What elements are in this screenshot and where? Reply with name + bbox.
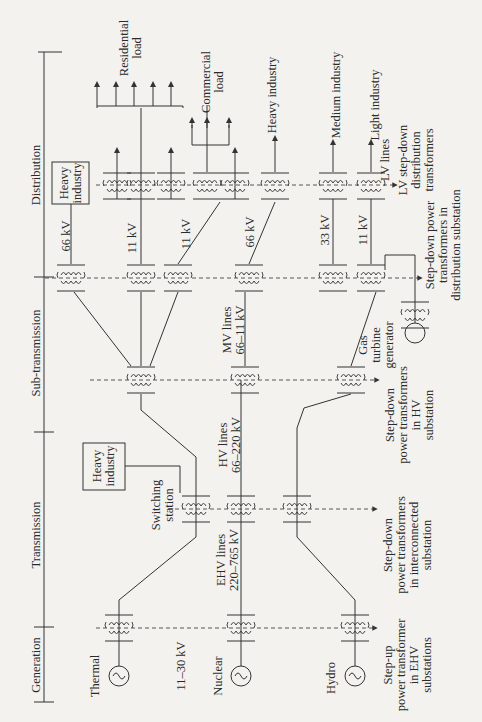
step-up-note-4: substations <box>420 637 434 693</box>
step-up-note-2: power transformer <box>394 618 408 712</box>
hv-line-right <box>297 408 304 481</box>
hv-label-2: 66–220 kV <box>229 417 243 473</box>
lv-dist-note-3: transformers <box>422 128 436 191</box>
residential-bus <box>97 106 183 108</box>
interconnected-note-4: substation <box>420 519 434 570</box>
mv-line-to-66kv-top <box>74 292 131 366</box>
residential-load-1: Residential <box>117 19 131 76</box>
lv-dist-note-2: distribution <box>409 130 423 188</box>
hv-sub-note-1: Step-down <box>383 387 397 442</box>
hv-label-1: HV lines <box>216 423 230 468</box>
step-up-note-1: Step-up <box>381 646 395 685</box>
nuclear-label: Nuclear <box>211 655 225 695</box>
dist-sub-note-1: Step-down power <box>423 200 437 289</box>
lv-lines-label: LV lines <box>378 139 392 181</box>
dist-11kv-b-label: 11 kV <box>179 219 193 249</box>
heavy-industry-switch-2: industry <box>103 445 117 487</box>
power-system-diagram: Distribution Sub-transmission Transmissi… <box>0 0 482 722</box>
ehv-label-1: EHV lines <box>214 534 228 586</box>
dist-66kv-mid-label: 66 kV <box>243 217 257 248</box>
hv-line-left <box>141 394 196 481</box>
commercial-load-2: load <box>212 70 226 92</box>
stage-subtransmission: Sub-transmission <box>29 309 43 397</box>
gas-turbine-label-2: turbine <box>369 327 383 363</box>
stage-distribution: Distribution <box>29 144 43 205</box>
dist-11kv-a-label: 11 kV <box>125 223 139 253</box>
mv-label-2: 66–11 kV <box>233 305 247 354</box>
lv-dist-note-1: LV step-down <box>396 124 410 195</box>
light-industry-label: Light industry <box>368 69 382 141</box>
heavy-industry-top-1: Heavy <box>57 166 71 199</box>
lv-transformer-heavy <box>261 173 289 199</box>
hydro-ehv-line <box>297 481 355 600</box>
dist-sub-note-3: distribution substation <box>449 189 463 301</box>
stage-transmission: Transmission <box>29 501 43 569</box>
thermal-generator <box>109 600 129 686</box>
commercial-bus <box>192 125 229 145</box>
hydro-generator <box>345 600 365 686</box>
heavy-industry-label: Heavy industry <box>265 56 279 133</box>
dist-66kv-top-label: 66 kV <box>59 221 73 252</box>
hv-sub-note-3: in HV <box>409 400 423 431</box>
residential-load-2: load <box>130 36 144 58</box>
hv-sub-note-2: power transformers <box>396 366 410 464</box>
switching-station-label-1: Switching <box>149 479 163 530</box>
heavy-industry-switch-1: Heavy <box>90 449 104 482</box>
gas-turbine-label-1: Gas <box>356 335 370 355</box>
commercial-load-1: Commercial <box>199 51 213 113</box>
interconnected-note-3: in interconnected <box>407 501 421 588</box>
gas-turbine-label-3: generator <box>382 321 396 369</box>
hydro-hv-to-sub <box>304 394 351 408</box>
dist-sub-note-2: transformers in <box>436 206 450 283</box>
heavy-industry-top-2: industry <box>70 162 84 204</box>
dist-11kv-c-label: 11 kV <box>356 215 370 245</box>
ehv-label-2: 220–765 kV <box>227 529 241 591</box>
thermal-label: Thermal <box>88 654 102 697</box>
generation-voltage-label: 11–30 kV <box>174 641 188 690</box>
switching-station-label-2: station <box>162 488 176 522</box>
step-up-note-3: in EHV <box>407 646 421 685</box>
mv-line-to-11kv-b <box>150 292 178 366</box>
lv-transformer-medium <box>319 173 347 199</box>
mv-label-1: MV lines <box>220 307 234 354</box>
interconnected-note-1: Step-down <box>381 517 395 572</box>
interconnected-note-2: power transformers <box>394 496 408 594</box>
hv-sub-note-4: substation <box>422 389 436 440</box>
lv-transformer-com-1 <box>193 173 221 199</box>
medium-industry-label: Medium industry <box>329 51 343 138</box>
hydro-label: Hydro <box>324 662 338 694</box>
stage-generation: Generation <box>29 636 43 692</box>
dist-33kv-label: 33 kV <box>318 215 332 246</box>
